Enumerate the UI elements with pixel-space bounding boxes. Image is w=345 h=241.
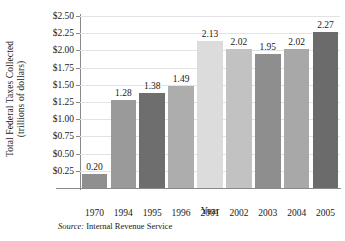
x-axis-line (56, 188, 341, 189)
bar-1994: 1.28 (111, 100, 137, 188)
source-note: Source: Internal Revenue Service (58, 221, 172, 231)
y-axis-tick-label: $1.50 (53, 80, 74, 90)
y-tick-mark (76, 154, 80, 155)
bar-value-label: 2.27 (317, 20, 334, 30)
bar-2003: 1.95 (255, 54, 281, 188)
bar-value-label: 2.13 (202, 29, 219, 39)
bar-value-label: 1.49 (173, 74, 190, 84)
bar-2005: 2.27 (313, 32, 339, 188)
y-tick-mark (76, 33, 80, 34)
y-tick-mark (76, 85, 80, 86)
y-axis-tick-label: $0.25 (53, 166, 74, 176)
bar-value-label: 1.38 (144, 81, 161, 91)
bar-value-label: 2.02 (288, 37, 305, 47)
bar-2001: 2.13 (197, 41, 223, 188)
y-axis-tick-label: $1.75 (53, 63, 74, 73)
y-axis-title-line-1: Total Federal Taxes Collected (5, 41, 15, 157)
plot-area: $0.25$0.50$0.75$1.00$1.25$1.50$1.75$2.00… (80, 16, 340, 188)
bar-value-label: 0.20 (86, 162, 103, 172)
y-axis-tick-label: $1.25 (53, 97, 74, 107)
y-tick-mark (76, 136, 80, 137)
y-axis-tick-label: $0.50 (53, 149, 74, 159)
gridline (80, 16, 340, 17)
source-text: Internal Revenue Service (84, 221, 172, 231)
y-axis-tick-label: $2.25 (53, 28, 74, 38)
y-axis-title: Total Federal Taxes Collected (trillions… (5, 9, 27, 189)
source-label: Source: (58, 221, 84, 231)
y-tick-mark (76, 171, 80, 172)
y-axis-tick-label: $0.75 (53, 131, 74, 141)
bar-2004: 2.02 (284, 49, 310, 188)
bar-2002: 2.02 (226, 49, 252, 188)
bar-value-label: 1.95 (259, 42, 276, 52)
bar-value-label: 2.02 (231, 37, 248, 47)
bar-chart: Total Federal Taxes Collected (trillions… (0, 0, 345, 241)
x-axis-title: Year (80, 205, 340, 216)
bar-1995: 1.38 (139, 93, 165, 188)
bar-value-label: 1.28 (115, 88, 132, 98)
bar-1996: 1.49 (168, 86, 194, 189)
y-axis-tick-label: $1.00 (53, 114, 74, 124)
y-tick-mark (76, 50, 80, 51)
y-axis-title-line-2: (trillions of dollars) (16, 9, 27, 189)
y-tick-mark (76, 16, 80, 17)
bar-1970: 0.20 (82, 174, 108, 188)
y-axis-tick-label: $2.50 (53, 11, 74, 21)
y-tick-mark (76, 119, 80, 120)
y-tick-mark (76, 102, 80, 103)
y-tick-mark (76, 68, 80, 69)
y-axis-tick-label: $2.00 (53, 45, 74, 55)
